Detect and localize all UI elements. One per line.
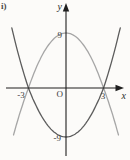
y-axis-label: y xyxy=(57,1,63,12)
x-tick-minus-3: -3 xyxy=(17,90,25,100)
y-tick-9: 9 xyxy=(58,30,63,40)
y-axis-arrow-icon xyxy=(63,3,69,12)
coordinate-plane: i) y x O 9 -9 -3 3 xyxy=(0,0,130,160)
x-axis-label: x xyxy=(121,90,127,101)
x-tick-3: 3 xyxy=(101,91,106,101)
origin-label: O xyxy=(57,89,64,99)
figure-index-label: i) xyxy=(1,1,7,11)
y-tick-minus-9: -9 xyxy=(54,133,62,143)
